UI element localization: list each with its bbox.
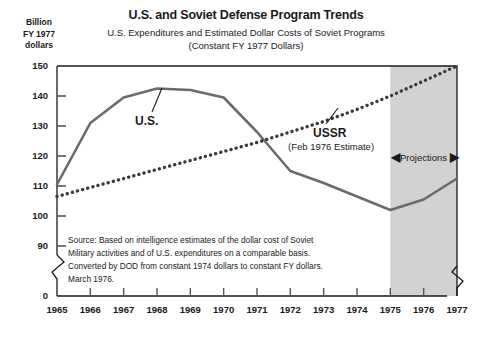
y-axis-break-icon bbox=[52, 255, 64, 296]
y-axis-tick-label: 100 bbox=[18, 210, 48, 221]
plot-area bbox=[0, 0, 492, 342]
source-line-1: Source: Based on intelligence estimates … bbox=[68, 234, 323, 247]
projections-shaded-band bbox=[390, 66, 457, 296]
y-axis-tick-label: 150 bbox=[18, 60, 48, 71]
y-axis-tick-label: 130 bbox=[18, 120, 48, 131]
chart-container: U.S. and Soviet Defense Program Trends U… bbox=[0, 0, 492, 342]
y-axis-tick-label: 140 bbox=[18, 90, 48, 101]
series-label-us: U.S. bbox=[135, 114, 158, 128]
y-axis-tick-label: 0 bbox=[18, 290, 48, 301]
y-axis-tick-label: 90 bbox=[18, 240, 48, 251]
series-sublabel-ussr: (Feb 1976 Estimate) bbox=[288, 141, 374, 152]
x-axis-tick-label: 1977 bbox=[437, 304, 477, 315]
series-label-ussr: USSR bbox=[313, 126, 346, 140]
projections-arrow-left-icon: ◀ bbox=[391, 150, 400, 164]
source-note: Source: Based on intelligence estimates … bbox=[68, 234, 323, 286]
source-line-2: Military activities and of U.S. expendit… bbox=[68, 247, 323, 260]
leader-line-us bbox=[152, 88, 162, 112]
y-axis-tick-label: 110 bbox=[18, 180, 48, 191]
projections-label: Projections bbox=[400, 152, 447, 163]
source-line-3: Converted by DOD from constant 1974 doll… bbox=[68, 260, 323, 273]
source-line-4: March 1976. bbox=[68, 273, 323, 286]
projections-arrow-right-icon: ▶ bbox=[450, 150, 459, 164]
y-axis-tick-label: 120 bbox=[18, 150, 48, 161]
